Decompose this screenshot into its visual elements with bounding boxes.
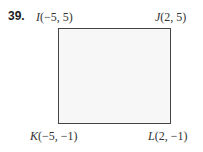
vertex-label-J: J(2, 5) — [155, 10, 186, 25]
vertex-coords: (2, 5) — [160, 10, 186, 24]
rectangle-IJKL — [58, 28, 171, 124]
vertex-label-L: L(2, −1) — [148, 129, 187, 144]
vertex-coords: (−5, 5) — [40, 10, 73, 24]
vertex-coords: (2, −1) — [155, 129, 188, 143]
vertex-name: K — [30, 129, 38, 143]
vertex-label-K: K(−5, −1) — [30, 129, 78, 144]
vertex-name: L — [148, 129, 155, 143]
vertex-coords: (−5, −1) — [38, 129, 78, 143]
problem-number: 39. — [8, 9, 25, 23]
vertex-label-I: I(−5, 5) — [36, 10, 73, 25]
